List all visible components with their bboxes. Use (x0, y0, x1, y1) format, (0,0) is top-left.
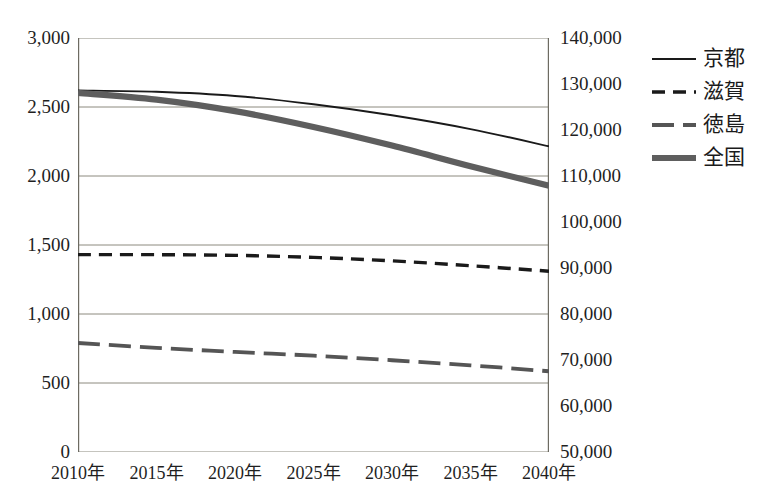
right-axis-tick-label: 50,000 (560, 442, 612, 461)
left-axis-tick-label: 1,000 (27, 304, 70, 323)
legend-label: 全国 (703, 147, 745, 168)
legend-item-京都[interactable]: 京都 (652, 42, 772, 75)
population-projection-chart: 05001,0001,5002,0002,5003,000 50,00060,0… (0, 0, 775, 502)
x-axis-tick-label: 2030年 (353, 464, 431, 483)
legend-swatch-dashed-icon (652, 85, 696, 99)
right-axis-tick-label: 110,000 (560, 166, 621, 185)
right-axis-tick-label: 130,000 (560, 74, 622, 93)
left-axis-tick-label: 500 (42, 373, 71, 392)
plot-svg (78, 38, 549, 452)
series-line-滋賀 (78, 255, 549, 272)
right-axis-tick-label: 90,000 (560, 258, 612, 277)
left-axis-tick-label: 3,000 (27, 28, 70, 47)
chart-title (0, 0, 640, 2)
right-axis-tick-label: 100,000 (560, 212, 622, 231)
series-line-徳島 (78, 343, 549, 371)
data-series (78, 90, 549, 371)
x-axis-tick-label: 2010年 (39, 464, 117, 483)
legend-label: 滋賀 (703, 81, 745, 102)
x-axis-tick-label: 2040年 (510, 464, 588, 483)
right-axis-tick-label: 60,000 (560, 396, 612, 415)
right-axis-tick-label: 120,000 (560, 120, 622, 139)
left-axis-tick-label: 2,500 (27, 97, 70, 116)
legend-swatch-solid-thin-icon (652, 52, 696, 66)
legend-item-徳島[interactable]: 徳島 (652, 108, 772, 141)
x-axis-tick-label: 2035年 (432, 464, 510, 483)
right-axis-tick-label: 140,000 (560, 28, 622, 47)
x-axis-tick-label: 2015年 (118, 464, 196, 483)
legend-item-全国[interactable]: 全国 (652, 141, 772, 174)
left-axis-tick-label: 1,500 (27, 235, 70, 254)
right-axis-tick-label: 80,000 (560, 304, 612, 323)
plot-area (78, 38, 549, 452)
chart-legend: 京都滋賀徳島全国 (652, 42, 772, 174)
left-axis-tick-label: 0 (61, 442, 71, 461)
left-axis-tick-label: 2,000 (27, 166, 70, 185)
legend-swatch-long-dash-icon (652, 118, 696, 132)
x-axis-tick-label: 2020年 (196, 464, 274, 483)
legend-swatch-solid-thick-icon (652, 151, 696, 165)
x-axis-tick-label: 2025年 (275, 464, 353, 483)
legend-item-滋賀[interactable]: 滋賀 (652, 75, 772, 108)
legend-label: 京都 (703, 48, 745, 69)
right-axis-tick-label: 70,000 (560, 350, 612, 369)
legend-label: 徳島 (703, 114, 745, 135)
